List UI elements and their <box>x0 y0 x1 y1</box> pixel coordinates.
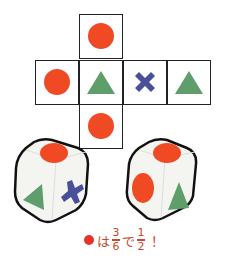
net-face-front <box>79 60 123 105</box>
caption-suffix: ！ <box>151 231 164 250</box>
net-face-top <box>79 14 123 59</box>
green-triangle-icon <box>175 71 203 94</box>
red-circle-icon <box>40 143 68 163</box>
fraction-denominator: 2 <box>138 242 145 252</box>
net-face-right <box>123 60 167 105</box>
red-circle-icon <box>88 23 114 49</box>
caption-middle: で <box>122 231 135 250</box>
blue-cross-icon <box>130 67 160 97</box>
fraction-numerator: 3 <box>113 228 120 238</box>
fraction-denominator: 6 <box>113 242 120 252</box>
caption-prefix: は <box>97 231 110 250</box>
die-left <box>12 138 90 224</box>
red-circle-icon <box>44 69 70 95</box>
red-circle-icon <box>84 235 94 245</box>
probability-caption: は 3 6 で 1 2 ！ <box>84 226 164 254</box>
red-circle-icon <box>153 143 181 163</box>
red-circle-icon <box>132 173 154 203</box>
net-face-left <box>35 60 79 105</box>
red-circle-icon <box>88 113 114 139</box>
fraction-three-sixths: 3 6 <box>112 228 120 251</box>
fraction-one-half: 1 2 <box>137 228 145 251</box>
green-triangle-icon <box>87 71 115 94</box>
fraction-numerator: 1 <box>138 228 145 238</box>
die-right <box>123 138 199 222</box>
net-face-back <box>167 60 211 105</box>
